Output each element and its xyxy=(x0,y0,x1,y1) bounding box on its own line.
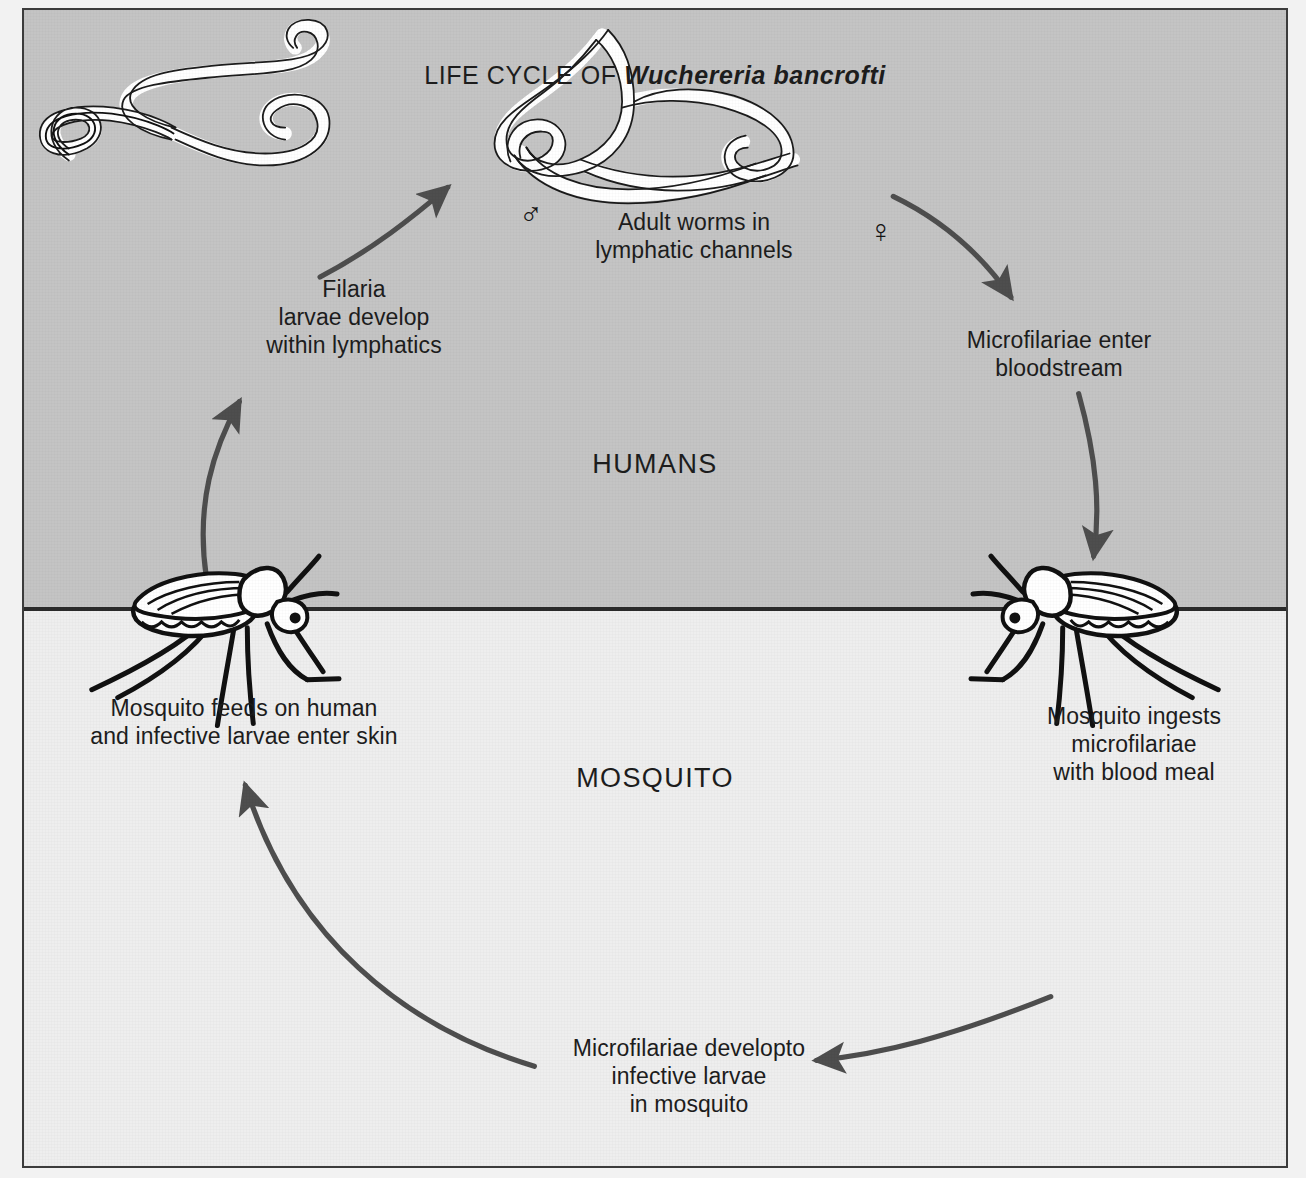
arrow-adults-to-microfilariae xyxy=(893,196,1011,297)
arrow-develop-to-feeds xyxy=(245,785,534,1066)
humans-region-label: HUMANS xyxy=(24,448,1286,481)
figure-title-prefix: LIFE CYCLE OF xyxy=(424,61,624,89)
stage-label-mosquito-ingests: Mosquito ingests microfilariae with bloo… xyxy=(979,702,1288,786)
diagram-graphics-layer xyxy=(24,10,1286,1166)
stage-label-filaria-lymphatics: Filaria larvae develop within lymphatics xyxy=(214,275,494,359)
female-adult-worm-illustration xyxy=(495,30,798,203)
arrow-larvae-to-adults xyxy=(320,187,448,277)
figure-page: LIFE CYCLE OF Wuchereria bancrofti HUMAN… xyxy=(0,0,1306,1178)
stage-label-larvae-develop-mosquito: Microfilariae developto infective larvae… xyxy=(524,1034,854,1118)
stage-label-mosquito-feeds: Mosquito feeds on human and infective la… xyxy=(54,694,434,750)
stage-label-microfilariae-bloodstream: Microfilariae enter bloodstream xyxy=(909,326,1209,382)
stage-label-adult-worms: Adult worms in lymphatic channels xyxy=(544,208,844,264)
figure-title: LIFE CYCLE OF Wuchereria bancrofti xyxy=(24,60,1286,91)
male-symbol-icon: ♂ xyxy=(519,198,543,230)
male-adult-worm-illustration xyxy=(40,20,330,166)
figure-title-species: Wuchereria bancrofti xyxy=(624,61,886,89)
mosquito-feeding-right-illustration xyxy=(971,556,1218,725)
female-symbol-icon: ♀ xyxy=(869,215,893,247)
figure-frame: LIFE CYCLE OF Wuchereria bancrofti HUMAN… xyxy=(22,8,1288,1168)
arrow-skin-to-lymphatics xyxy=(203,402,239,578)
